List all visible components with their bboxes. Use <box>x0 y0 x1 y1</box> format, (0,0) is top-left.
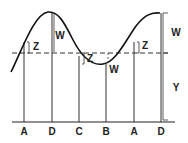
baseline-label-d-1: D <box>48 127 55 137</box>
baseline-label-a-1: A <box>20 127 27 137</box>
label-w-peak: W <box>55 31 64 41</box>
baseline-label-c: C <box>75 127 82 137</box>
label-w-right: W <box>171 28 180 38</box>
baseline-label-a-2: A <box>130 127 137 137</box>
diagram-canvas <box>0 0 188 143</box>
label-z-mid: Z <box>87 54 93 64</box>
label-z-right: Z <box>142 41 148 51</box>
wave-diagram: Z W Z W Z W Y A D C B A D <box>0 0 188 143</box>
baseline-label-b: B <box>102 127 109 137</box>
label-w-trough: W <box>109 65 118 75</box>
baseline-label-d-2: D <box>157 127 164 137</box>
label-z-left: Z <box>33 42 39 52</box>
z-bracket-right <box>137 42 139 53</box>
label-y-right: Y <box>173 83 180 93</box>
z-bracket-left <box>27 42 29 53</box>
